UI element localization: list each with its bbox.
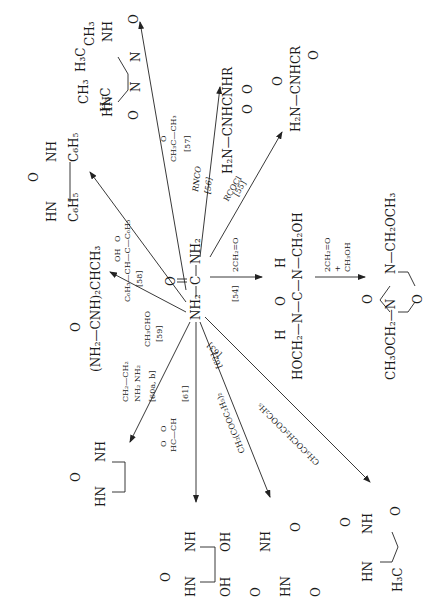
reagent-58-o: O — [113, 235, 122, 242]
barbituric-o1: O — [249, 587, 263, 597]
reaction-58: C₆H₅—CH—C—C₆H₅ OH O [58] — [90, 172, 186, 302]
methyluracil-nh: NH — [361, 513, 375, 534]
reaction-54: [54] 2CH₂=O — [210, 237, 262, 302]
methyluracil-o1: O — [339, 517, 353, 527]
oxadiazinone-right: N—CH₂OCH₃ — [384, 193, 398, 274]
reagent-formaldehyde-2: 2CH₂=O — [323, 237, 332, 272]
product-dimethylolurea: H O H HOCH₂—N—C—N—CH₂OH — [274, 212, 305, 380]
reaction-61: HC—CH O O [61] — [159, 322, 196, 502]
product-bicyclic-tetramethyl: CH₃ H₃C H₃C CH₃ NH HN N N O O — [74, 14, 143, 120]
reagent-60-top: CH₂—CH₂ — [121, 361, 130, 402]
ref-58: [58] — [135, 271, 144, 287]
reagent-57: CH₃C—CH₃ — [169, 115, 178, 162]
product-imidazolidinone: O HN NH — [69, 441, 125, 507]
ref-54: [54] — [231, 286, 240, 302]
bicyclic-o-b: O — [127, 14, 141, 24]
product-acylurea: H₂N—CNHCR O O — [271, 45, 321, 132]
dimethylol-formula: HOCH₂—N—C—N—CH₂OH — [291, 212, 305, 380]
reaction-diagram: NH₂ C O NH₂ [54] 2CH₂=O H O H HOCH₂—N—C—… — [0, 0, 436, 602]
reaction-cyclization: 2CH₂=O + CH₃OH — [315, 237, 365, 277]
ethylidene-formula: (NH₂—CNH)₂CHCH₃ — [89, 246, 103, 372]
ref-61: [61] — [181, 386, 190, 402]
dimethylol-h-left: H — [274, 330, 288, 340]
ref-56: [56] — [203, 176, 214, 194]
bicyclic-o-a: O — [127, 110, 141, 120]
reagent-62: CH₂(COOC₂H₅)₂ — [214, 391, 247, 454]
bicyclic-hn-a: HN — [101, 96, 115, 117]
dihydroxy-oh2: OH — [219, 532, 233, 552]
reagent-56: RNCO — [191, 165, 203, 193]
product-biuret-derivative: H₂N—CNHCNHR O O — [221, 66, 255, 174]
bicyclic-n-c: N — [129, 52, 143, 63]
bicyclic-ch3-a: CH₃ — [77, 79, 91, 104]
diphenyl-ph1: C₆H₅ — [67, 193, 81, 222]
methyluracil-me: H₃C — [391, 568, 405, 592]
product-diphenyl-imidazolidinone: O HN NH C₆H₅ C₆H₅ — [27, 133, 81, 222]
imidazolidinone-nh: NH — [94, 441, 108, 462]
reaction-56: RNCO [56] — [191, 87, 220, 257]
reagent-61: HC—CH — [169, 418, 178, 452]
diphenyl-o: O — [27, 172, 41, 182]
ref-60: [60a, b] — [148, 371, 157, 402]
biuret-o1: O — [241, 104, 255, 114]
barbituric-nh: NH — [259, 531, 273, 552]
reagent-58: C₆H₅—CH—C—C₆H₅ — [123, 220, 132, 302]
reaction-63: CH₃COCH₂COOC₂H₅ [63] — [205, 317, 370, 482]
dihydroxy-oh1: OH — [219, 577, 233, 597]
product-barbituric-acid: O NH HN O O — [249, 522, 323, 597]
product-ethylidene-diurea: (NH₂—CNH)₂CHCH₃ O — [69, 246, 103, 372]
ethylidene-o: O — [69, 322, 83, 332]
product-oxadiazinone: CH₃OCH₂—N N—CH₂OCH₃ O O — [361, 193, 425, 380]
bicyclic-ch3-b: CH₃ — [83, 21, 97, 46]
imidazolidinone-o: O — [69, 472, 83, 482]
acylurea-o1: O — [271, 76, 285, 86]
biuret-formula: H₂N—CNHCNHR — [221, 66, 235, 174]
acylurea-o2: O — [307, 50, 321, 60]
diagram-canvas: NH₂ C O NH₂ [54] 2CH₂=O H O H HOCH₂—N—C—… — [0, 0, 436, 602]
reagent-59: CH₃CHO — [143, 311, 152, 347]
imidazolidinone-hn: HN — [94, 486, 108, 507]
ref-57: [57] — [183, 136, 192, 152]
ref-59: [59] — [155, 326, 164, 342]
barbituric-o3: O — [309, 587, 323, 597]
biuret-o2: O — [241, 84, 255, 94]
acylurea-formula: H₂N—CNHCR — [289, 45, 303, 132]
urea-nh2-left: NH₂ — [189, 294, 203, 320]
barbituric-o2: O — [289, 522, 303, 532]
barbituric-hn: HN — [279, 576, 293, 597]
reagent-61-o1: O — [159, 440, 168, 447]
dihydroxy-nh: NH — [184, 531, 198, 552]
dimethylol-h-right: H — [274, 258, 288, 268]
oxadiazinone-o: O — [361, 294, 375, 304]
urea-c: C — [189, 276, 203, 285]
oxadiazinone-ring-o: O — [411, 294, 425, 304]
methyluracil-hn: HN — [361, 561, 375, 582]
diphenyl-nh: NH — [45, 141, 59, 162]
bicyclic-h3c-b: H₃C — [74, 48, 88, 72]
diphenyl-ph2: C₆H₅ — [67, 133, 81, 162]
product-methyluracil: O NH HN O H₃C — [339, 506, 405, 592]
methyluracil-o2: O — [389, 506, 403, 516]
reagent-57-o: O — [159, 135, 168, 142]
dihydroxy-o: O — [159, 572, 173, 582]
reagent-63: CH₃COCH₂COOC₂H₅ — [256, 401, 322, 467]
diphenyl-hn: HN — [45, 201, 59, 222]
dihydroxy-hn: HN — [184, 576, 198, 597]
reagent-60-bottom: NH₂ NH₂ — [133, 365, 142, 402]
oxadiazinone-left: CH₃OCH₂—N — [384, 299, 398, 380]
reagent-plus: + — [333, 265, 342, 272]
central-urea: NH₂ C O NH₂ — [164, 238, 203, 320]
reagent-54: 2CH₂=O — [231, 237, 240, 272]
reagent-58-oh: OH — [113, 248, 122, 262]
reagent-methanol: CH₃OH — [343, 242, 352, 272]
bicyclic-n-b: N — [129, 82, 143, 93]
ref-63: [63] — [205, 341, 223, 359]
product-dihydroxy-imidazolidinone: O HN NH OH OH — [159, 531, 233, 597]
reagent-61-o2: O — [159, 425, 168, 432]
bicyclic-nh-a: NH — [101, 21, 115, 42]
dimethylol-o: O — [274, 296, 288, 306]
